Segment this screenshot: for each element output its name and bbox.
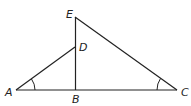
label-a: A — [5, 87, 13, 98]
label-d: D — [79, 42, 87, 53]
geometry-diagram: E D A B C — [0, 0, 191, 106]
segment-ad — [16, 47, 75, 90]
label-b: B — [72, 94, 80, 105]
diagram-lines — [0, 0, 191, 106]
label-c: C — [181, 87, 189, 98]
angle-arc-c — [157, 79, 161, 91]
angle-arc-a — [32, 79, 36, 90]
label-e: E — [66, 9, 73, 20]
segment-ec — [75, 17, 177, 90]
